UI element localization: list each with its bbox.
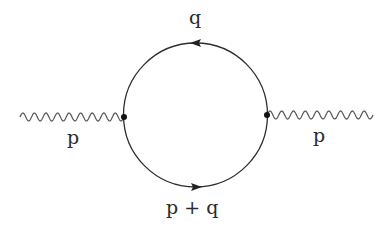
right-vertex — [264, 112, 270, 118]
label-top-momentum: q — [189, 8, 201, 27]
fermion-loop — [124, 43, 268, 187]
label-right-momentum: p — [313, 126, 325, 145]
incoming-photon-line — [20, 113, 124, 121]
left-vertex — [121, 114, 127, 120]
label-left-momentum: p — [67, 128, 79, 147]
label-bottom-momentum: p + q — [166, 198, 218, 217]
outgoing-photon-line — [267, 111, 373, 119]
